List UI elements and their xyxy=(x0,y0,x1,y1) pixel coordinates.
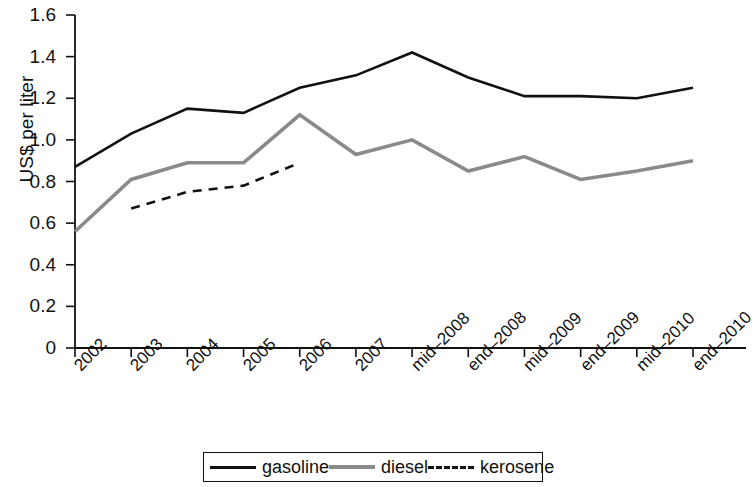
solid-gray-line-swatch-icon xyxy=(329,460,375,474)
axes xyxy=(66,15,746,357)
solid-line-swatch-icon xyxy=(210,460,256,474)
dashed-line-swatch-icon xyxy=(428,460,474,474)
series-line-diesel xyxy=(75,115,693,232)
chart-legend: gasoline diesel kerosene xyxy=(203,452,543,482)
series-line-gasoline xyxy=(75,52,693,166)
data-series xyxy=(75,52,693,231)
legend-item-kerosene: kerosene xyxy=(428,457,554,478)
series-line-kerosene xyxy=(131,163,300,209)
legend-item-gasoline: gasoline xyxy=(210,457,329,478)
legend-label: kerosene xyxy=(480,457,554,478)
legend-label: gasoline xyxy=(262,457,329,478)
legend-label: diesel xyxy=(381,457,428,478)
legend-item-diesel: diesel xyxy=(329,457,428,478)
